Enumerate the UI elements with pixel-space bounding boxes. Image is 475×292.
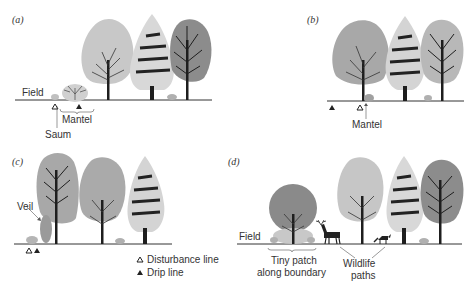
dark-deciduous-canopy <box>170 19 211 82</box>
mantel-label-a: Mantel <box>62 115 92 125</box>
fox-icon <box>374 234 391 244</box>
wildlife-label-2: paths <box>351 271 375 281</box>
panel-a-label: (a) <box>12 14 24 25</box>
forest-edge-diagram <box>0 0 475 292</box>
field-label-a: Field <box>22 88 44 98</box>
veil-vine <box>40 215 52 243</box>
conifer-canopy <box>130 14 174 90</box>
panel-d-scene <box>237 156 463 258</box>
veil-label: Veil <box>17 202 33 212</box>
legend-open-triangle-icon <box>137 257 143 262</box>
legend-disturbance-line: Disturbance line <box>147 255 219 265</box>
panel-b-label: (b) <box>307 14 319 25</box>
patch-bracket <box>268 248 316 252</box>
field-label-d: Field <box>239 232 261 242</box>
mantel-label-b: Mantel <box>352 120 382 130</box>
panel-d-label: (d) <box>228 156 240 167</box>
saum-herb <box>51 94 59 100</box>
patch-label-2: along boundary <box>257 268 326 278</box>
panel-a-scene <box>15 14 212 128</box>
saum-label: Saum <box>45 130 71 140</box>
legend-drip-line: Drip line <box>147 268 184 278</box>
panel-c-label: (c) <box>12 156 23 167</box>
wildlife-label-1: Wildlife <box>343 259 375 269</box>
deer-icon <box>316 220 340 244</box>
patch-label-1: Tiny patch <box>271 256 317 266</box>
panel-b-scene <box>327 16 464 119</box>
legend-filled-triangle-icon <box>137 270 143 275</box>
drip-line-marker <box>76 104 82 109</box>
